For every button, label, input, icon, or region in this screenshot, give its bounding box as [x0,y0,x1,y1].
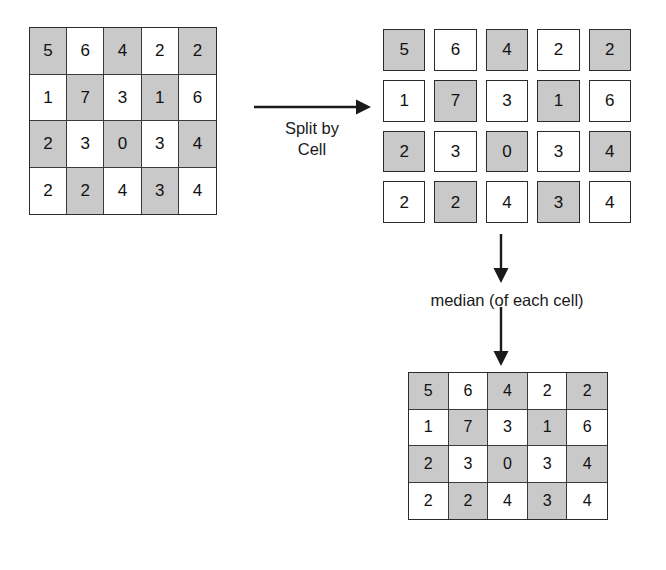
grid-cell: 3 [449,446,489,483]
grid-cell: 0 [486,131,528,173]
grid-cell: 2 [179,28,216,75]
source-grid: 56422173162303422434 [29,27,217,215]
grid-cell: 2 [409,483,449,520]
grid-cell: 2 [30,121,67,168]
grid-cell: 4 [104,168,141,215]
grid-cell: 3 [528,483,568,520]
grid-cell: 2 [409,446,449,483]
grid-cell: 1 [409,410,449,447]
split-grid: 56422173162303422434 [383,29,631,223]
grid-cell: 2 [67,168,104,215]
grid-cell: 2 [589,29,631,71]
grid-cell: 4 [179,168,216,215]
grid-cell: 2 [383,131,425,173]
grid-cell: 3 [486,80,528,122]
grid-cell: 5 [383,29,425,71]
grid-cell: 6 [589,80,631,122]
grid-cell: 3 [142,168,179,215]
grid-cell: 4 [488,373,528,410]
grid-cell: 4 [567,446,607,483]
grid-cell: 3 [488,410,528,447]
grid-cell: 3 [142,121,179,168]
grid-cell: 5 [30,28,67,75]
grid-cell: 3 [537,131,579,173]
grid-cell: 3 [537,181,579,223]
grid-cell: 5 [409,373,449,410]
grid-cell: 3 [528,446,568,483]
right-arrow-icon [252,94,372,120]
grid-cell: 1 [528,410,568,447]
result-grid: 56422173162303422434 [408,372,608,520]
grid-cell: 7 [434,80,476,122]
grid-cell: 2 [30,168,67,215]
grid-cell: 7 [67,75,104,122]
grid-cell: 2 [449,483,489,520]
grid-cell: 0 [104,121,141,168]
down-arrow-icon [488,232,514,284]
grid-cell: 3 [67,121,104,168]
grid-cell: 2 [528,373,568,410]
grid-cell: 2 [434,181,476,223]
grid-cell: 4 [589,181,631,223]
grid-cell: 7 [449,410,489,447]
diagram-canvas: 56422173162303422434 Split by Cell 56422… [0,0,666,570]
grid-cell: 6 [567,410,607,447]
grid-cell: 2 [537,29,579,71]
down-arrow-icon [488,305,514,367]
grid-cell: 4 [104,28,141,75]
grid-cell: 4 [589,131,631,173]
grid-cell: 3 [104,75,141,122]
grid-cell: 4 [567,483,607,520]
grid-cell: 1 [383,80,425,122]
grid-cell: 2 [383,181,425,223]
grid-cell: 6 [67,28,104,75]
grid-cell: 2 [142,28,179,75]
grid-cell: 6 [449,373,489,410]
grid-cell: 4 [486,181,528,223]
grid-cell: 2 [567,373,607,410]
grid-cell: 1 [142,75,179,122]
grid-cell: 6 [434,29,476,71]
grid-cell: 3 [434,131,476,173]
split-by-cell-label: Split by Cell [256,118,368,160]
grid-cell: 1 [30,75,67,122]
grid-cell: 1 [537,80,579,122]
grid-cell: 4 [486,29,528,71]
grid-cell: 0 [488,446,528,483]
grid-cell: 4 [488,483,528,520]
grid-cell: 4 [179,121,216,168]
grid-cell: 6 [179,75,216,122]
